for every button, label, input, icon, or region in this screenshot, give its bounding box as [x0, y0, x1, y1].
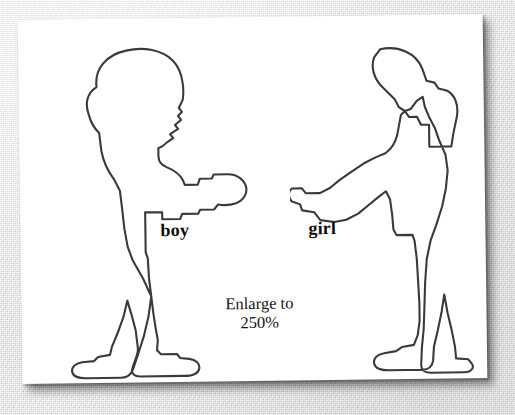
enlarge-note-line-2: 250%: [190, 312, 330, 333]
paper-content-area: boy girl Enlarge to 250%: [18, 14, 488, 384]
enlarge-instruction-note: Enlarge to 250%: [189, 293, 329, 334]
paper-sheet: boy girl Enlarge to 250%: [18, 14, 488, 384]
paper-sheet-wrapper: boy girl Enlarge to 250%: [18, 14, 488, 384]
enlarge-note-line-1: Enlarge to: [189, 293, 329, 314]
figure-label-boy: boy: [160, 220, 189, 241]
figure-label-girl: girl: [308, 218, 336, 239]
